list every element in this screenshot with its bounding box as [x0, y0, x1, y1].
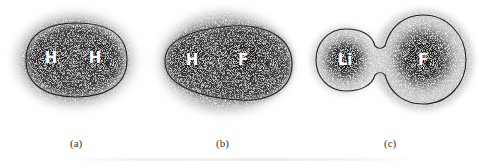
atom-label-h: H — [89, 49, 102, 67]
atom-label-f: F — [238, 51, 248, 69]
panel-b-hf — [153, 6, 297, 118]
panel-caption-c: (c) — [384, 137, 396, 149]
panel-caption-b: (b) — [216, 137, 229, 149]
bleed-through-text — [60, 158, 420, 161]
atom-label-h: H — [186, 51, 199, 69]
atom-label-li: Li — [338, 51, 353, 69]
atom-label-f: F — [418, 51, 428, 69]
atom-label-h: H — [45, 49, 58, 67]
panel-caption-a: (a) — [70, 137, 82, 149]
panel-a-h2 — [9, 8, 141, 112]
